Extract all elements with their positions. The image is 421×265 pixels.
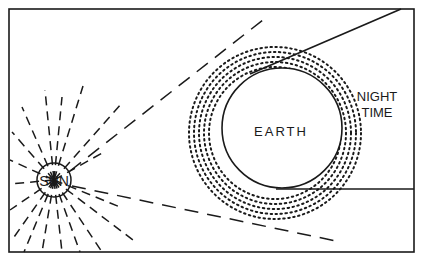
sun-label: SUN bbox=[39, 173, 69, 189]
night-label-line2: TIME bbox=[361, 105, 392, 120]
earth-label: EARTH bbox=[254, 124, 308, 139]
sun-earth-diagram: SUN EARTH NIGHT TIME bbox=[0, 0, 421, 265]
night-label-line1: NIGHT bbox=[357, 89, 398, 104]
